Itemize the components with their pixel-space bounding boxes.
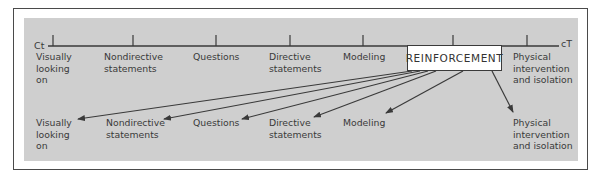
continuum-label-modeling: Modeling: [343, 51, 385, 63]
continuum-label-physical: Physical intervention and isolation: [513, 51, 573, 86]
arrow-to-questions: [242, 71, 428, 119]
arrow-to-nondirective: [164, 71, 420, 119]
continuum-label-questions: Questions: [193, 51, 239, 63]
diagram-lines: [0, 0, 604, 183]
axis-end-label: cT: [561, 38, 572, 49]
reinforcement-box: REINFORCEMENT: [407, 45, 502, 71]
continuum-label-directive: Directive statements: [269, 51, 322, 74]
arrow-to-directive: [314, 71, 436, 117]
target-label-physical: Physical intervention and isolation: [513, 117, 573, 152]
target-label-visually: Visually looking on: [36, 117, 72, 152]
arrow-to-physical: [492, 71, 513, 112]
reinforcement-arrows: [78, 71, 513, 119]
axis-start-label: Ct: [34, 40, 44, 51]
continuum-label-visually: Visually looking on: [36, 51, 72, 86]
continuum-label-nondirective: Nondirective statements: [104, 51, 163, 74]
arrow-to-visually: [78, 71, 412, 119]
target-label-directive: Directive statements: [269, 117, 322, 140]
target-label-nondirective: Nondirective statements: [106, 117, 165, 140]
target-label-modeling: Modeling: [343, 117, 385, 129]
target-label-questions: Questions: [193, 117, 239, 129]
arrow-to-modeling: [386, 71, 463, 113]
